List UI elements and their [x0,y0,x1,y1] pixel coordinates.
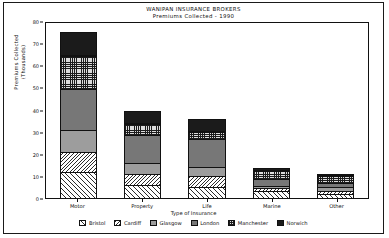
legend-label: Cardiff [124,220,141,226]
bar-segment-norwich[interactable] [60,32,97,56]
y-axis-tick-label: 50 [33,85,39,91]
bar-group [46,23,368,198]
bar-segment-cardiff[interactable] [124,174,161,185]
legend-item-cardiff[interactable]: Cardiff [114,220,141,226]
bar-segment-norwich[interactable] [188,119,225,132]
x-axis-tick-mark [142,199,143,202]
bar-segment-bristol[interactable] [124,185,161,198]
y-axis-tick-label: 30 [33,130,39,136]
bar-segment-london[interactable] [60,89,97,131]
legend-label: Manchester [238,220,268,226]
y-axis-tick-label: 60 [33,63,39,69]
bar-segment-glasgow[interactable] [60,130,97,152]
legend-item-manchester[interactable]: Manchester [228,220,268,226]
x-axis-title: Type of Insurance [4,210,383,216]
bar-stack-property[interactable] [124,23,161,198]
bar-stack-marine[interactable] [253,23,290,198]
bar-segment-cardiff[interactable] [188,176,225,187]
bar-segment-glasgow[interactable] [124,163,161,174]
legend-label: London [200,220,219,226]
x-axis-tick-mark [77,199,78,202]
y-axis-tick-label: 10 [33,174,39,180]
legend-swatch-manchester [228,220,235,226]
y-axis-tick-mark [40,110,43,111]
y-axis-tick-mark [40,66,43,67]
bar-segment-glasgow[interactable] [188,167,225,176]
y-axis-tick-label: 40 [33,108,39,114]
bar-stack-other[interactable] [317,23,354,198]
bar-stack-motor[interactable] [60,23,97,198]
chart-subtitle: Premiums Collected - 1990 [4,13,383,20]
legend-swatch-bristol [79,220,86,226]
y-axis-tick-label: 20 [33,152,39,158]
y-axis-tick-mark [40,22,43,23]
y-axis-ticks: 01020304050607080 [4,22,43,199]
y-axis-tick-label: 70 [33,41,39,47]
chart-title: WANIPAN INSURANCE BROKERS [4,6,383,13]
legend-swatch-norwich [277,220,284,226]
bar-segment-manchester[interactable] [253,171,290,180]
y-axis-tick-mark [40,154,43,155]
legend-item-glasgow[interactable]: Glasgow [150,220,182,226]
y-axis-tick-mark [40,199,43,200]
legend-item-bristol[interactable]: Bristol [79,220,105,226]
bar-segment-bristol[interactable] [317,194,354,198]
legend-item-london[interactable]: London [191,220,220,226]
legend-label: Bristol [89,220,106,226]
legend-swatch-glasgow [150,220,157,226]
chart-title-block: WANIPAN INSURANCE BROKERS Premiums Colle… [4,6,383,20]
bar-segment-bristol[interactable] [188,187,225,198]
y-axis-tick-mark [40,132,43,133]
x-axis-tick-mark [337,199,338,202]
chart-frame: WANIPAN INSURANCE BROKERS Premiums Colle… [3,2,384,234]
legend-label: Glasgow [160,220,182,226]
y-axis-tick-mark [40,176,43,177]
bar-segment-manchester[interactable] [60,56,97,89]
bar-segment-bristol[interactable] [253,191,290,198]
legend-label: Norwich [287,220,308,226]
y-axis-tick-mark [40,88,43,89]
x-axis-tick-mark [272,199,273,202]
bar-segment-cardiff[interactable] [60,152,97,172]
y-axis-tick-label: 80 [33,19,39,25]
legend-item-norwich[interactable]: Norwich [277,220,308,226]
legend: BristolCardiffGlasgowLondonManchesterNor… [4,220,383,226]
y-axis-tick-mark [40,44,43,45]
plot-area [45,22,369,199]
bar-segment-bristol[interactable] [60,172,97,198]
bar-segment-london[interactable] [188,139,225,167]
x-axis-tick-mark [207,199,208,202]
bar-segment-london[interactable] [124,135,161,163]
bar-stack-life[interactable] [188,23,225,198]
legend-swatch-london [191,220,198,226]
bar-segment-manchester[interactable] [124,124,161,135]
bar-segment-norwich[interactable] [124,111,161,124]
legend-swatch-cardiff [114,220,121,226]
y-axis-tick-label: 0 [36,196,39,202]
